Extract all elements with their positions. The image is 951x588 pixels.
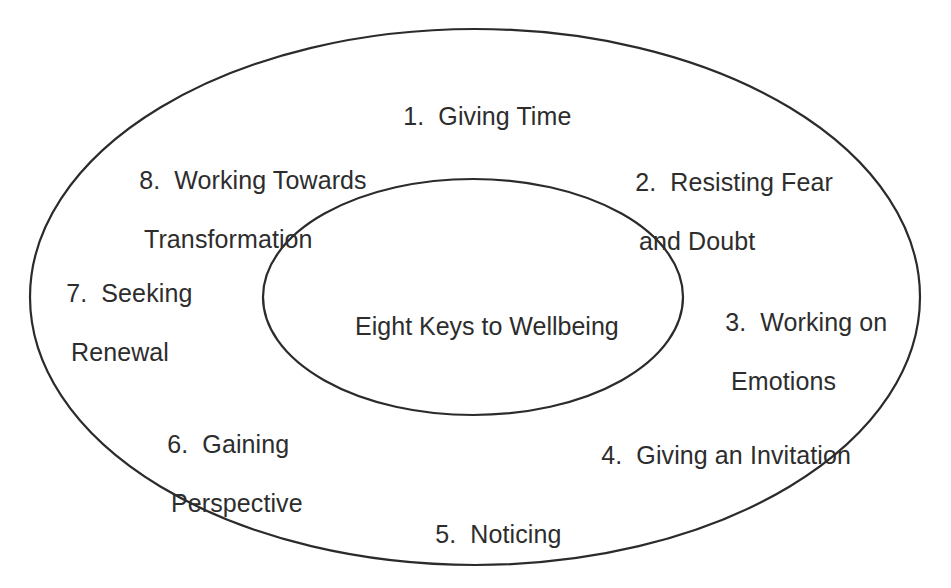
key-label-6: 6. Gaining Perspective xyxy=(139,400,303,577)
key-label-8: 8. Working Towards Transformation xyxy=(111,136,367,313)
key-5-number: 5. xyxy=(435,520,456,548)
key-6-line2: Perspective xyxy=(139,489,303,519)
key-8-line2: Transformation xyxy=(111,225,367,255)
key-6-number: 6. xyxy=(167,430,188,458)
key-3-number: 3. xyxy=(725,308,746,336)
key-7-line2: Renewal xyxy=(38,338,192,368)
key-3-line1: Working on xyxy=(760,308,887,336)
key-3-line2: Emotions xyxy=(697,367,887,397)
key-7-number: 7. xyxy=(66,279,87,307)
key-1-line1: Giving Time xyxy=(438,102,571,130)
key-label-4: 4. Giving an Invitation xyxy=(573,411,851,500)
key-6-line1: Gaining xyxy=(202,430,289,458)
key-label-1: 1. Giving Time xyxy=(375,72,571,161)
key-label-5: 5. Noticing xyxy=(407,490,561,579)
key-2-line1: Resisting Fear xyxy=(670,168,833,196)
key-5-line1: Noticing xyxy=(470,520,561,548)
key-2-number: 2. xyxy=(635,168,656,196)
key-4-line1: Giving an Invitation xyxy=(636,441,851,469)
key-1-number: 1. xyxy=(403,102,424,130)
key-2-line2: and Doubt xyxy=(607,227,833,257)
center-title-text: Eight Keys to Wellbeing xyxy=(355,312,619,340)
key-8-line1: Working Towards xyxy=(174,166,366,194)
key-8-number: 8. xyxy=(139,166,160,194)
diagram-canvas: Eight Keys to Wellbeing 1. Giving Time 2… xyxy=(0,0,951,588)
key-4-number: 4. xyxy=(601,441,622,469)
